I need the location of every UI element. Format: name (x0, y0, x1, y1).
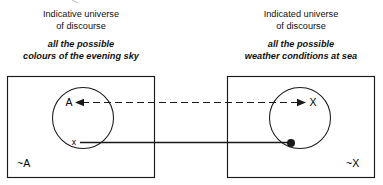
right-subtitle-line-1: all the possible (268, 39, 334, 49)
left-subtitle-line-2: colours of the evening sky (23, 51, 140, 61)
right-set-circle (270, 88, 331, 149)
left-element-label: x (72, 137, 77, 147)
right-subtitle-line-2: weather conditions at sea (245, 51, 357, 61)
right-heading-line-2: of discourse (276, 21, 326, 31)
left-set-circle (53, 88, 114, 149)
arrowhead-right-icon (297, 99, 306, 106)
left-heading-line-1: Indicative universe (43, 9, 119, 19)
left-subtitle-line-1: all the possible (48, 39, 114, 49)
set-mapping-diagram: Indicative universe of discourse all the… (0, 0, 383, 185)
right-heading-line-1: Indicated universe (264, 9, 339, 19)
left-set-label: A (65, 96, 72, 108)
page-crop-mark (72, 0, 78, 3)
right-complement-label: ~X (346, 157, 359, 169)
left-heading-line-2: of discourse (56, 21, 106, 31)
left-complement-label: ~A (17, 157, 30, 169)
set-correspondence-connector (75, 99, 306, 106)
right-set-label: X (309, 96, 316, 108)
arrowhead-left-icon (75, 99, 84, 106)
